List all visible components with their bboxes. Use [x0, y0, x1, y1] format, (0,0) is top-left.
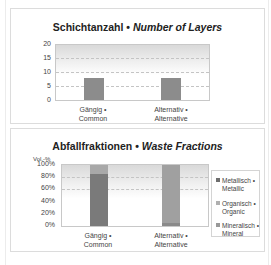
- x-label-common: Gängig • Common: [68, 231, 128, 249]
- title-en: Waste Fractions: [142, 140, 223, 152]
- bar-common: [84, 78, 104, 100]
- legend: Metallisch • Metallic Organisch • Organi…: [211, 170, 260, 237]
- legend-swatch-mineral: [216, 223, 220, 227]
- y-tick: 0%: [27, 221, 55, 228]
- stacked-bar-alternative: [162, 165, 180, 226]
- chart-panel-layers: Schichtanzahl • Number of Layers 20 15 1…: [10, 8, 265, 124]
- gridline: [56, 58, 209, 59]
- legend-swatch-organic: [216, 201, 220, 205]
- y-tick: 15: [23, 54, 51, 61]
- x-label-common: Gängig • Common: [63, 105, 123, 123]
- y-tick: 80%: [27, 172, 55, 179]
- gridline: [56, 72, 209, 73]
- title-en: Number of Layers: [133, 21, 222, 33]
- gridline: [62, 189, 208, 190]
- chart-title-layers: Schichtanzahl • Number of Layers: [11, 21, 264, 33]
- chart-title-waste: Abfallfraktionen • Waste Fractions: [11, 140, 264, 152]
- title-sep: •: [135, 140, 142, 152]
- title-sep: •: [126, 21, 133, 33]
- segment-organic: [162, 165, 180, 223]
- legend-item-mineral: Mineralisch • Mineral: [216, 222, 259, 238]
- frame-line-right: [268, 0, 269, 265]
- y-tick: 5: [23, 82, 51, 89]
- y-tick: 40%: [27, 197, 55, 204]
- legend-swatch-metallic: [216, 178, 220, 182]
- legend-item-metallic: Metallisch • Metallic: [216, 177, 255, 193]
- gridline: [56, 86, 209, 87]
- segment-metallic: [90, 174, 108, 226]
- bar-alternative: [161, 78, 181, 100]
- frame-line-left: [5, 0, 6, 265]
- y-tick: 20%: [27, 209, 55, 216]
- segment-mineral: [162, 223, 180, 226]
- y-tick: 0: [23, 96, 51, 103]
- x-label-alternative: Alternativ • Alternative: [141, 231, 201, 249]
- gridline: [62, 177, 208, 178]
- y-tick: 100%: [27, 160, 55, 167]
- plot-area-layers: [55, 44, 210, 101]
- plot-area-waste: [61, 164, 209, 227]
- y-tick: 10: [23, 68, 51, 75]
- title-de: Abfallfraktionen: [52, 140, 132, 152]
- legend-item-organic: Organisch • Organic: [216, 200, 256, 216]
- y-tick: 60%: [27, 184, 55, 191]
- x-label-alternative: Alternativ • Alternative: [141, 105, 201, 123]
- y-tick: 20: [23, 40, 51, 47]
- title-de: Schichtanzahl: [53, 21, 124, 33]
- chart-panel-waste: Abfallfraktionen • Waste Fractions Vol.-…: [10, 128, 265, 252]
- stacked-bar-common: [90, 165, 108, 226]
- segment-organic: [90, 165, 108, 174]
